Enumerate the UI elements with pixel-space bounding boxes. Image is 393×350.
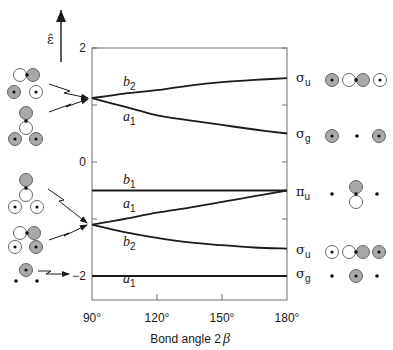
arrow-to-lower-degenerate-1 xyxy=(48,189,87,223)
linear-label-main: σ xyxy=(296,70,305,85)
open-lobe xyxy=(20,189,33,202)
arrow-to-minus-two xyxy=(38,271,69,274)
y-tick-label: −2 xyxy=(72,269,86,283)
arrow-to-upper-degenerate-1 xyxy=(49,84,88,98)
level-label-sub: 1 xyxy=(130,203,136,214)
orbital-diagram-b2-upper-90 xyxy=(8,69,43,99)
arrow-to-upper-degenerate-2 xyxy=(49,99,88,112)
nucleus-dot xyxy=(34,90,37,93)
level-label-sub: 1 xyxy=(130,116,136,127)
level-label-sub: 2 xyxy=(130,241,136,252)
level-label-sub: 1 xyxy=(130,278,136,289)
nucleus-dot xyxy=(377,134,380,137)
energy-axis-label: ε̂ xyxy=(47,32,54,47)
linear-label: σu xyxy=(296,242,310,260)
level-label-sub: 1 xyxy=(130,179,136,190)
nucleus-dot xyxy=(35,279,39,283)
nucleus-dot xyxy=(355,134,359,138)
y-tick-label: 0 xyxy=(79,155,86,169)
nucleus-dot xyxy=(378,78,381,81)
orbital-diagram-pi-u-180 xyxy=(330,181,379,209)
nucleus-dot xyxy=(25,73,29,77)
shaded-lobe xyxy=(357,74,370,87)
nucleus-dot xyxy=(330,134,333,137)
linear-label-sub: g xyxy=(305,273,311,284)
open-lobe xyxy=(343,246,356,259)
linear-orbital-diagrams xyxy=(326,74,387,283)
energy-level-curves xyxy=(92,78,287,276)
level-label-main: b xyxy=(123,172,130,187)
orbital-diagram-a1-lowest-90 xyxy=(14,264,39,283)
nucleus-dot xyxy=(375,274,379,278)
nucleus-dot xyxy=(330,274,334,278)
nucleus-dot xyxy=(34,245,37,248)
open-lobe xyxy=(14,69,27,82)
correlation-arrows xyxy=(38,84,88,274)
open-lobe xyxy=(350,196,363,209)
orbital-diagram-sigma-g-upper-180 xyxy=(326,130,386,143)
nucleus-dot xyxy=(330,250,333,253)
nucleus-dot xyxy=(375,192,379,196)
level-label: b2 xyxy=(123,74,136,92)
nucleus-dot xyxy=(34,137,37,140)
level-label: b1 xyxy=(123,172,136,190)
linear-label-sub: u xyxy=(305,191,311,202)
orbital-diagram-sigma-g-lower-180 xyxy=(330,270,379,283)
nucleus-dot xyxy=(24,268,27,271)
level-label-main: a xyxy=(123,271,130,286)
linear-symmetry-labels: σuσgπuσuσg xyxy=(296,70,310,284)
x-axis-label-text: Bond angle 2 xyxy=(150,332,221,346)
nucleus-dot xyxy=(354,250,358,254)
linear-label-sub: g xyxy=(305,133,311,144)
linear-label: σg xyxy=(296,126,310,144)
bent-orbital-diagrams xyxy=(8,69,44,283)
x-tick-labels: 90°120°150°180° xyxy=(83,311,300,325)
x-axis-label-beta: β xyxy=(222,331,230,346)
level-curve xyxy=(92,225,287,249)
linear-label: σg xyxy=(296,266,310,284)
level-label: a1 xyxy=(123,271,136,289)
nucleus-dot xyxy=(35,205,38,208)
linear-label: πu xyxy=(296,184,310,202)
nucleus-dot xyxy=(330,78,333,81)
level-label: a1 xyxy=(123,196,136,214)
level-curve xyxy=(92,98,287,133)
nucleus-dot xyxy=(13,137,16,140)
orbital-diagram-sigma-u-lower-180 xyxy=(326,246,386,259)
x-tick-label: 90° xyxy=(83,311,101,325)
nucleus-dot xyxy=(25,231,29,235)
level-label-main: b xyxy=(123,234,130,249)
nucleus-dot xyxy=(24,119,28,123)
nucleus-dot xyxy=(354,192,358,196)
shaded-lobe xyxy=(20,174,33,187)
x-axis-label: Bond angle 2β xyxy=(150,331,230,346)
linear-label-sub: u xyxy=(305,249,311,260)
orbital-diagram-b2-lower-90 xyxy=(9,227,43,254)
orbital-diagram-sigma-u-upper-180 xyxy=(326,74,387,87)
linear-label-main: σ xyxy=(296,126,305,141)
x-tick-label: 150° xyxy=(210,311,235,325)
nucleus-dot xyxy=(13,205,16,208)
level-curve xyxy=(92,78,287,98)
nucleus-dot xyxy=(330,192,334,196)
linear-label-main: σ xyxy=(296,242,305,257)
nucleus-dot xyxy=(377,250,380,253)
shaded-lobe xyxy=(28,227,41,240)
level-label: b2 xyxy=(123,234,136,252)
arrow-to-lower-degenerate-2 xyxy=(49,225,87,240)
nucleus-dot xyxy=(24,186,28,190)
level-label-main: b xyxy=(123,74,130,89)
nucleus-dot xyxy=(354,274,357,277)
nucleus-dot xyxy=(13,245,16,248)
open-lobe xyxy=(343,74,356,87)
nucleus-dot xyxy=(12,90,15,93)
linear-label-sub: u xyxy=(305,77,311,88)
orbital-diagram-a1-upper-90 xyxy=(9,107,43,146)
orbital-correlation-diagram: ε̂ 02−2 90°120°150°180° b2a1b1a1b2a1 σuσ… xyxy=(0,0,393,350)
open-lobe xyxy=(20,122,33,135)
x-tick-label: 180° xyxy=(275,311,300,325)
nucleus-dot xyxy=(354,78,358,82)
y-tick-labels: 02−2 xyxy=(72,41,86,283)
level-label-sub: 2 xyxy=(130,81,136,92)
linear-label-main: σ xyxy=(296,266,305,281)
